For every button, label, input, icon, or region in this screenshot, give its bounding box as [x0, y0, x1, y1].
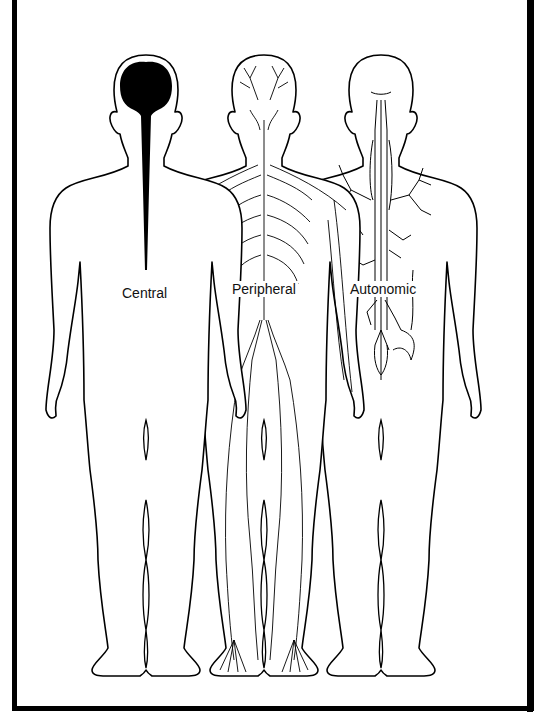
label-autonomic: Autonomic: [348, 281, 418, 297]
label-central: Central: [120, 285, 169, 301]
label-peripheral: Peripheral: [230, 281, 298, 297]
